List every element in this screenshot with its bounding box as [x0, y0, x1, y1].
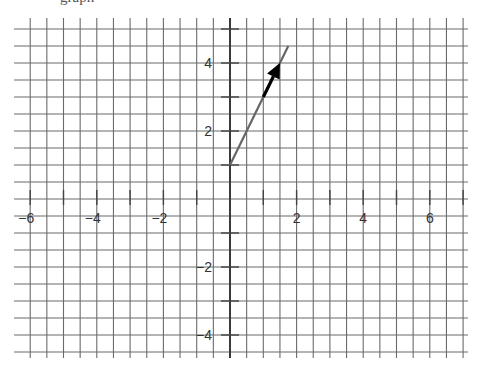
y-tick-label: −2: [196, 259, 212, 275]
x-tick-label: −4: [85, 210, 101, 226]
y-tick-label: 4: [204, 55, 212, 71]
grid-lines: [14, 18, 468, 358]
y-tick-label: 2: [204, 123, 212, 139]
x-tick-label: 6: [426, 210, 434, 226]
x-tick-label: 2: [293, 210, 301, 226]
x-tick-label: −2: [151, 210, 167, 226]
x-tick-label: −6: [18, 210, 34, 226]
x-tick-label: 4: [359, 210, 367, 226]
coordinate-plane: −6−4−224642−2−4: [0, 0, 480, 370]
y-tick-label: −4: [196, 327, 212, 343]
